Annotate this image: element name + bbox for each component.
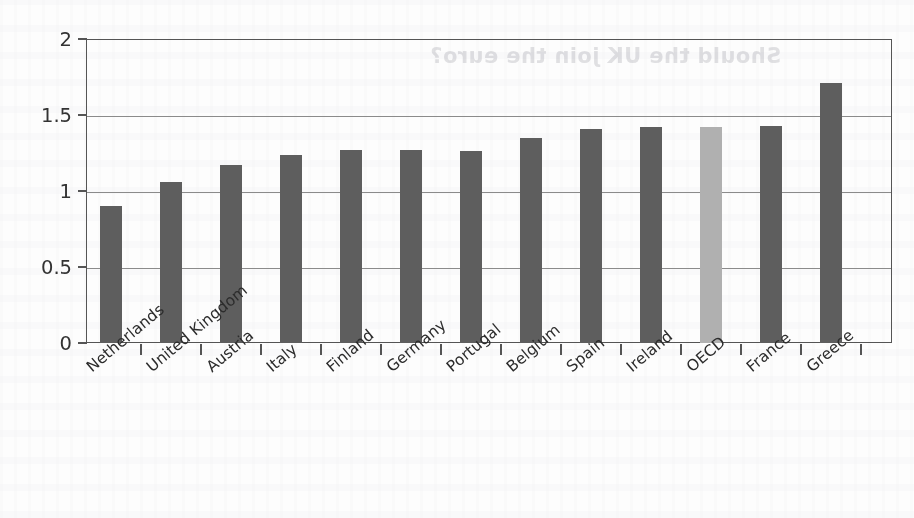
x-axis-tick-mark	[200, 344, 201, 355]
bar-spain	[580, 129, 602, 343]
y-axis-tick-label: 0.5	[8, 256, 72, 279]
x-axis-tick-mark	[440, 344, 441, 355]
x-axis-tick-mark	[860, 344, 861, 355]
bar-greece	[820, 83, 842, 343]
bar-italy	[280, 155, 302, 343]
bar-finland	[340, 150, 362, 343]
bar-oecd	[700, 127, 722, 343]
x-axis-label-italy: Italy	[263, 340, 301, 376]
x-axis-tick-mark	[500, 344, 501, 355]
y-axis-tick-label: 2	[8, 28, 72, 51]
y-axis-tick-mark	[78, 38, 87, 40]
bars-layer	[86, 39, 892, 343]
y-axis-tick-label: 0	[8, 332, 72, 355]
bar-portugal	[460, 151, 482, 343]
y-axis-tick-mark	[78, 266, 87, 268]
y-axis-tick-mark	[78, 342, 87, 344]
bar-netherlands	[100, 206, 122, 343]
x-axis-tick-mark	[260, 344, 261, 355]
x-axis-tick-mark	[140, 344, 141, 355]
y-axis-tick-mark	[78, 114, 87, 116]
y-axis-tick-label: 1.5	[8, 104, 72, 127]
bar-united-kingdom	[160, 182, 182, 343]
y-axis-tick-mark	[78, 190, 87, 192]
x-axis-tick-mark	[800, 344, 801, 355]
y-axis-tick-label: 1	[8, 180, 72, 203]
bar-france	[760, 126, 782, 343]
bar-ireland	[640, 127, 662, 343]
x-axis-tick-mark	[320, 344, 321, 355]
bar-belgium	[520, 138, 542, 343]
x-axis-tick-mark	[560, 344, 561, 355]
x-axis-tick-mark	[620, 344, 621, 355]
x-axis-tick-mark	[740, 344, 741, 355]
x-axis-tick-mark	[680, 344, 681, 355]
x-axis-tick-mark	[380, 344, 381, 355]
bar-chart: 00.511.52 NetherlandsUnited KingdomAustr…	[0, 0, 914, 518]
y-axis-labels: 00.511.52	[6, 0, 72, 518]
bar-germany	[400, 150, 422, 343]
